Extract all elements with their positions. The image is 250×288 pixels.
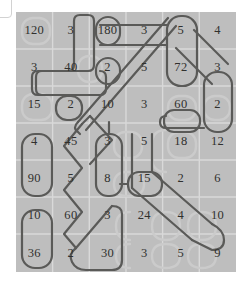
cell-r4c2[interactable]: 8 (89, 160, 126, 197)
cell-r3c2[interactable]: 3 (89, 123, 126, 160)
cell-r2c4[interactable]: 60 (163, 86, 200, 123)
cell-r3c4[interactable]: 18 (163, 123, 200, 160)
cell-r2c1[interactable]: 2 (53, 86, 90, 123)
cell-r3c5[interactable]: 12 (199, 123, 236, 160)
cell-r3c0[interactable]: 4 (16, 123, 53, 160)
cell-r1c2[interactable]: 2 (89, 49, 126, 86)
cell-r4c5[interactable]: 6 (199, 160, 236, 197)
cell-layer: 120 3 180 3 5 4 3 40 2 5 72 3 15 2 10 3 … (16, 12, 236, 272)
cell-r2c3[interactable]: 3 (126, 86, 163, 123)
cell-r1c3[interactable]: 5 (126, 49, 163, 86)
puzzle-board[interactable]: 120 3 180 3 5 4 3 40 2 5 72 3 15 2 10 3 … (16, 12, 236, 272)
cell-r4c4[interactable]: 2 (163, 160, 200, 197)
cell-r0c5[interactable]: 4 (199, 12, 236, 49)
cell-r0c1[interactable]: 3 (53, 12, 90, 49)
cell-r4c0[interactable]: 90 (16, 160, 53, 197)
cell-r5c4[interactable]: 4 (163, 197, 200, 234)
cell-r5c0[interactable]: 10 (16, 197, 53, 234)
cell-r2c5[interactable]: 2 (199, 86, 236, 123)
cell-r1c4[interactable]: 72 (163, 49, 200, 86)
cell-r2c0[interactable]: 15 (16, 86, 53, 123)
cell-r0c0[interactable]: 120 (16, 12, 53, 49)
cell-r1c1[interactable]: 40 (53, 49, 90, 86)
cell-r4c1[interactable]: 5 (53, 160, 90, 197)
cell-r3c1[interactable]: 45 (53, 123, 90, 160)
cell-r5c3[interactable]: 24 (126, 197, 163, 234)
cell-r1c0[interactable]: 3 (16, 49, 53, 86)
cell-r6c2[interactable]: 30 (89, 234, 126, 272)
cell-r3c3[interactable]: 5 (126, 123, 163, 160)
cell-r5c5[interactable]: 10 (199, 197, 236, 234)
cell-r5c2[interactable]: 3 (89, 197, 126, 234)
cell-r6c4[interactable]: 5 (163, 234, 200, 272)
cell-r4c3[interactable]: 15 (126, 160, 163, 197)
puzzle-screenshot: 120 3 180 3 5 4 3 40 2 5 72 3 15 2 10 3 … (0, 0, 250, 288)
cell-r1c5[interactable]: 3 (199, 49, 236, 86)
cell-r6c5[interactable]: 9 (199, 234, 236, 272)
cell-r6c0[interactable]: 36 (16, 234, 53, 272)
cell-r2c2[interactable]: 10 (89, 86, 126, 123)
cell-r5c1[interactable]: 60 (53, 197, 90, 234)
cell-r0c3[interactable]: 3 (126, 12, 163, 49)
cell-r6c3[interactable]: 3 (126, 234, 163, 272)
cell-r6c1[interactable]: 2 (53, 234, 90, 272)
cell-r0c2[interactable]: 180 (89, 12, 126, 49)
corner-stub-shape (0, 0, 12, 18)
cell-r0c4[interactable]: 5 (163, 12, 200, 49)
